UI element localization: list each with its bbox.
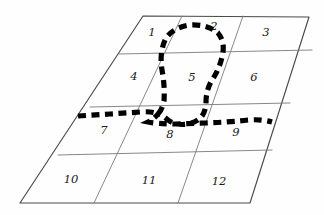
figure-canvas: 1 2 3 4 5 6 7 8 9 10 11 12 bbox=[0, 0, 324, 215]
cell-label-1: 1 bbox=[148, 25, 155, 39]
cell-label-9: 9 bbox=[232, 125, 239, 139]
cell-label-12: 12 bbox=[212, 174, 227, 188]
cell-label-5: 5 bbox=[188, 70, 195, 84]
cell-label-3: 3 bbox=[262, 25, 269, 39]
cell-label-11: 11 bbox=[142, 173, 157, 187]
cell-label-7: 7 bbox=[100, 123, 108, 137]
cell-label-6: 6 bbox=[250, 70, 257, 84]
cell-label-4: 4 bbox=[129, 69, 137, 83]
grid-diagram: 1 2 3 4 5 6 7 8 9 10 11 12 bbox=[0, 0, 324, 215]
cell-label-10: 10 bbox=[64, 172, 79, 186]
cell-label-8: 8 bbox=[166, 127, 173, 141]
